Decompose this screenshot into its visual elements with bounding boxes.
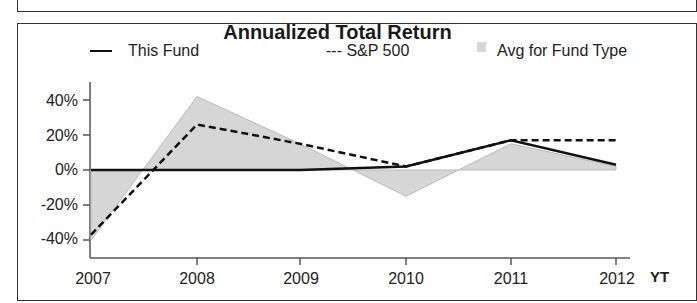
x-tick-label: 2008: [179, 270, 215, 288]
x-tick-label: 2010: [388, 270, 424, 288]
x-tick-label: 2009: [283, 270, 319, 288]
x-tick-label-ytd: YT: [650, 268, 669, 285]
x-tick-label: 2007: [75, 270, 111, 288]
x-tick-label: 2012: [599, 270, 635, 288]
x-tick-label: 2011: [494, 270, 528, 288]
